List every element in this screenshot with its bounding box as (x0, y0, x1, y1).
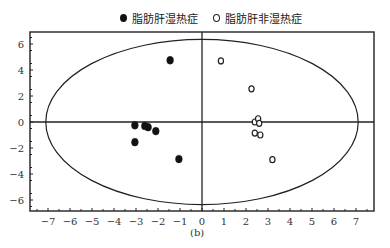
y-tick-label: −2 (9, 143, 24, 154)
x-tick-label: 5 (309, 216, 315, 227)
y-tick-label: −4 (9, 169, 24, 180)
hollow-data-point (270, 157, 275, 163)
y-tick-label: −6 (9, 195, 24, 206)
hollow-data-point (258, 132, 263, 138)
y-tick-label: 6 (18, 39, 24, 50)
x-tick-label: −2 (151, 216, 166, 227)
filled-data-point (152, 127, 159, 135)
x-tick-label: 1 (221, 216, 227, 227)
plot-frame (30, 32, 374, 211)
y-tick-label: 0 (18, 117, 24, 128)
x-tick-label: −5 (85, 216, 100, 227)
x-tick-label: −4 (107, 216, 122, 227)
scatter-plot: −7−6−5−4−3−2−1012345676420−2−4−6 (0, 0, 390, 248)
x-tick-label: 3 (265, 216, 271, 227)
axis-ticks: −7−6−5−4−3−2−1012345676420−2−4−6 (9, 38, 367, 228)
y-tick-label: 4 (18, 65, 24, 76)
filled-data-point (132, 138, 139, 146)
hollow-data-point (252, 130, 257, 136)
filled-data-point (167, 56, 174, 64)
filled-data-point (132, 121, 139, 129)
y-tick-label: 2 (18, 91, 24, 102)
hollow-data-point (218, 58, 223, 64)
x-tick-label: −3 (129, 216, 144, 227)
x-tick-label: 4 (287, 216, 293, 227)
hollow-data-point (249, 86, 254, 92)
x-tick-label: 6 (331, 216, 337, 227)
hollow-data-point (257, 120, 262, 126)
x-tick-label: 7 (353, 216, 359, 227)
data-points (132, 56, 276, 163)
filled-data-point (145, 123, 152, 131)
x-tick-label: −1 (173, 216, 188, 227)
x-tick-label: 0 (199, 216, 205, 227)
x-tick-label: 2 (243, 216, 249, 227)
x-tick-label: −6 (63, 216, 78, 227)
filled-data-point (176, 155, 183, 163)
x-tick-label: −7 (41, 216, 56, 227)
figure-caption: (b) (190, 227, 204, 238)
